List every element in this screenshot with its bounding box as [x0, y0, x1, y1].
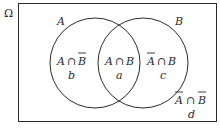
venn-diagram: Ω A B A ∩ B b A ∩ B a A ∩ B c A ∩ B d: [0, 0, 220, 134]
region-a-not-b: A ∩ B b: [56, 53, 86, 82]
region-not-a-b: A ∩ B c: [146, 53, 176, 82]
universe-label: Ω: [4, 7, 13, 20]
region-not-a-not-b-right: B: [197, 94, 206, 107]
region-a-and-b-right: B: [125, 55, 134, 68]
region-a-and-b-var: a: [116, 69, 123, 82]
region-not-a-not-b-left: A: [174, 94, 183, 107]
region-not-a-not-b: A ∩ B d: [174, 92, 206, 121]
set-b-label: B: [174, 15, 183, 28]
region-not-a-not-b-var: d: [188, 108, 195, 121]
region-a-not-b-var: b: [68, 69, 75, 82]
region-not-a-b-left: A: [146, 55, 155, 68]
region-a-and-b: A ∩ B a: [104, 55, 134, 82]
region-a-and-b-op: ∩: [115, 55, 124, 68]
region-not-a-b-op: ∩: [157, 55, 166, 68]
region-not-a-b-right: B: [167, 55, 176, 68]
region-a-not-b-op: ∩: [67, 55, 76, 68]
region-a-not-b-right: B: [77, 55, 86, 68]
region-not-a-not-b-op: ∩: [186, 94, 195, 107]
region-not-a-b-var: c: [160, 69, 166, 82]
region-a-and-b-left: A: [104, 55, 113, 68]
set-a-label: A: [56, 15, 65, 28]
region-a-not-b-left: A: [56, 55, 65, 68]
